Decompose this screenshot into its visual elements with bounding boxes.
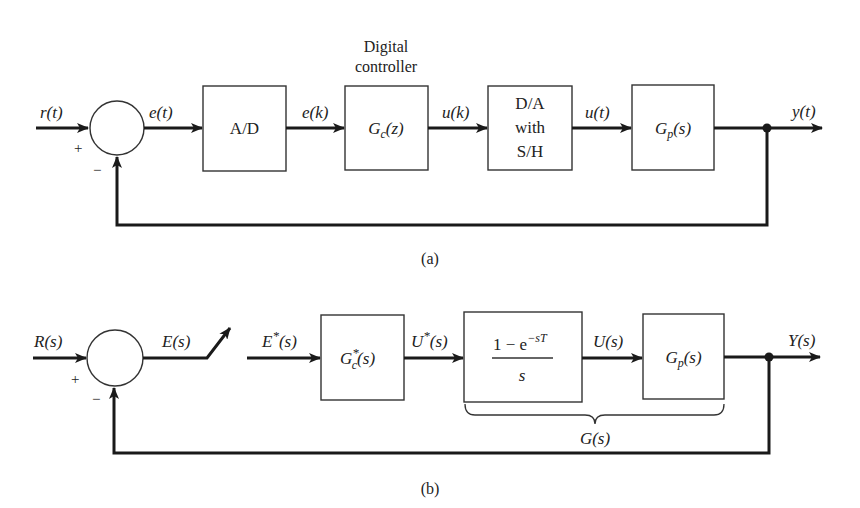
label-R-s: R(s) <box>33 332 63 351</box>
caption-b: (b) <box>421 480 440 498</box>
summing-junction-b <box>87 330 143 386</box>
summing-junction-a <box>90 101 144 155</box>
zero-order-hold-block <box>464 312 582 402</box>
digital-heading-line2: controller <box>355 58 418 75</box>
diagram-b: R(s) + − E(s) E*(s) G*c(s) U*(s) 1 − e−s… <box>33 312 820 498</box>
caption-a: (a) <box>421 250 439 268</box>
da-label-line1: D/A <box>515 94 545 113</box>
label-E-s: E(s) <box>161 332 191 351</box>
label-U-s: U(s) <box>593 332 624 351</box>
label-r-t: r(t) <box>40 103 63 122</box>
minus-sign-a: − <box>93 162 101 178</box>
diagram-a: r(t) + − e(t) A/D e(k) Digital controlle… <box>36 38 822 268</box>
label-G-s: G(s) <box>580 429 611 448</box>
controller-gc-z-label: Gc(z) <box>368 119 404 141</box>
label-u-k: u(k) <box>442 103 470 122</box>
block-diagram-canvas: r(t) + − e(t) A/D e(k) Digital controlle… <box>0 0 860 508</box>
plus-sign-b: + <box>71 371 79 387</box>
controller-gc-star-label: G*c(s) <box>340 345 375 372</box>
zoh-denominator: s <box>519 366 526 385</box>
plant-gp-s-label-a: Gp(s) <box>655 119 692 141</box>
label-e-t: e(t) <box>149 103 173 122</box>
label-y-t: y(t) <box>790 102 816 121</box>
minus-sign-b: − <box>92 391 100 407</box>
ad-label: A/D <box>230 119 259 138</box>
label-U-star-s: U*(s) <box>411 328 448 351</box>
label-e-k: e(k) <box>302 103 329 122</box>
digital-heading-line1: Digital <box>364 38 409 56</box>
label-Y-s: Y(s) <box>788 331 816 350</box>
da-label-line2: with <box>515 118 546 137</box>
da-label-line3: S/H <box>517 142 543 161</box>
label-E-star-s: E*(s) <box>261 328 297 351</box>
brace-g-s <box>465 404 724 424</box>
plant-gp-s-label-b: Gp(s) <box>665 348 702 370</box>
label-u-t: u(t) <box>585 103 610 122</box>
plus-sign-a: + <box>74 140 82 156</box>
